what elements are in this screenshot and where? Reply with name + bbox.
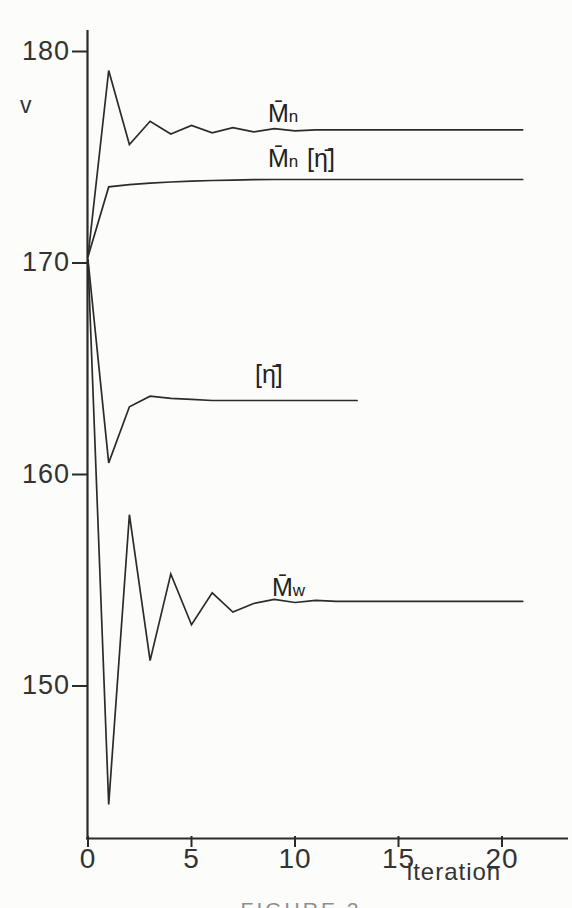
y-tick-label: 160 bbox=[14, 459, 70, 490]
x-tick-label: 15 bbox=[375, 843, 423, 875]
curve-mw bbox=[88, 260, 523, 805]
x-tick-label: 5 bbox=[168, 843, 216, 875]
x-tick-label: 20 bbox=[478, 843, 526, 875]
eta-bracket-term: [η̄] bbox=[255, 360, 283, 388]
curves bbox=[88, 71, 523, 805]
curve-[eta] bbox=[88, 260, 357, 463]
mw-subscript: w bbox=[293, 581, 305, 600]
curve-label-mn-eta: M̄n[η̄] bbox=[268, 144, 335, 173]
curve-label-eta: [η̄] bbox=[255, 360, 283, 389]
mw-symbol: M̄ bbox=[272, 573, 293, 601]
mn-eta-symbol: M̄ bbox=[268, 144, 289, 172]
figure-caption: FIGURE 2 bbox=[196, 898, 406, 908]
chart-canvas bbox=[0, 0, 572, 908]
x-tick-label: 0 bbox=[64, 843, 112, 875]
mn-eta-bracket-term: [η̄] bbox=[307, 144, 335, 172]
x-tick-label: 10 bbox=[271, 843, 319, 875]
curve-label-mw: M̄w bbox=[272, 573, 305, 602]
mn-subscript: n bbox=[289, 107, 298, 126]
figure-container: v iteration 180170160150 05101520 M̄n M̄… bbox=[0, 0, 572, 908]
y-tick-label: 180 bbox=[14, 36, 70, 67]
y-axis-label: v bbox=[20, 92, 32, 119]
curve-label-mn: M̄n bbox=[268, 99, 298, 128]
mn-symbol: M̄ bbox=[268, 99, 289, 127]
y-tick-label: 150 bbox=[14, 670, 70, 701]
y-tick-label: 170 bbox=[14, 247, 70, 278]
curve-mn bbox=[88, 180, 523, 257]
mn-eta-subscript: n bbox=[289, 152, 298, 171]
